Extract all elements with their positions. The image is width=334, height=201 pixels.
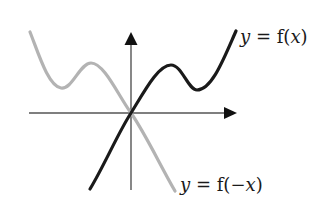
x-axis-arrow-icon xyxy=(224,107,237,119)
label-f-of-negative-x-arg: x xyxy=(245,174,255,195)
label-f-of-negative-x-fn: f( xyxy=(217,174,231,195)
y-axis-arrow-icon xyxy=(125,32,138,45)
label-f-of-x: y = f(x) xyxy=(239,26,308,47)
label-f-of-negative-x-eq: = xyxy=(190,174,217,195)
label-f-of-negative-x-close: ) xyxy=(256,174,263,195)
label-f-of-x-close: ) xyxy=(301,26,308,47)
function-reflection-diagram: y = f(x) y = f(−x) xyxy=(0,0,334,201)
label-f-of-x-eq: = xyxy=(250,26,277,47)
label-f-of-negative-x-sign: − xyxy=(230,174,245,195)
label-f-of-x-fn: f( xyxy=(277,26,291,47)
label-f-of-negative-x: y = f(−x) xyxy=(179,174,263,195)
label-f-of-x-arg: x xyxy=(290,26,300,47)
curve-f-of-x xyxy=(90,31,236,189)
